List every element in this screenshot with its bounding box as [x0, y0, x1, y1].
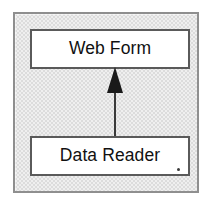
generalization-arrow: [101, 67, 129, 137]
class-box-web-form[interactable]: Web Form: [30, 29, 190, 69]
generalization-arrow-head: [107, 67, 123, 93]
diagram-frame: Web Form Data Reader: [13, 12, 199, 193]
class-box-web-form-label: Web Form: [69, 40, 151, 58]
stray-ink-dot: [177, 168, 180, 171]
class-box-data-reader[interactable]: Data Reader: [30, 136, 190, 176]
class-box-data-reader-label: Data Reader: [60, 147, 160, 165]
